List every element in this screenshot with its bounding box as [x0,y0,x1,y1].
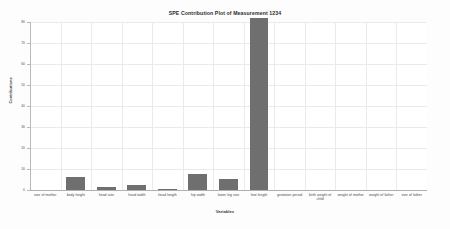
y-axis-line [30,22,31,191]
bar [188,174,207,190]
y-axis-tick-label: 60 [5,62,25,66]
gridline-vertical [305,22,306,190]
x-axis-tick-label: birth weight of child [305,193,336,202]
bar [66,177,85,190]
gridline-vertical [122,22,123,190]
y-axis-tick [27,43,30,44]
y-axis-title: Contributions [8,63,13,119]
x-axis-tick-label: gestation period [274,193,305,197]
gridline-vertical [213,22,214,190]
bar [250,18,269,190]
y-axis-tick-label: 80 [5,20,25,24]
y-axis-tick [27,190,30,191]
bar [219,179,238,190]
y-axis-tick [27,148,30,149]
gridline-vertical [366,22,367,190]
y-axis-tick-label: 10 [5,167,25,171]
x-axis-title: Variables [0,209,450,214]
x-axis-tick-label: head length [152,193,183,197]
spe-contribution-chart: SPE Contribution Plot of Measurement 123… [0,0,450,229]
plot-area [30,22,427,190]
gridline-horizontal [30,127,427,128]
y-axis-tick-label: 20 [5,146,25,150]
gridline-horizontal [30,169,427,170]
x-axis-tick-label: weight of father [366,193,397,197]
x-axis-tick-label: size of father [396,193,427,197]
gridline-vertical [183,22,184,190]
chart-title: SPE Contribution Plot of Measurement 123… [0,10,450,16]
gridline-horizontal [30,148,427,149]
gridline-vertical [91,22,92,190]
y-axis-tick-label: 0 [5,188,25,192]
gridline-vertical [274,22,275,190]
x-axis-tick-label: body height [61,193,92,197]
gridline-horizontal [30,22,427,23]
x-axis-tick-label: weight of mother [335,193,366,197]
gridline-vertical [396,22,397,190]
y-axis-tick-label: 50 [5,83,25,87]
y-axis-tick [27,22,30,23]
x-axis-tick-label: hip width [183,193,214,197]
y-axis-tick-label: 40 [5,104,25,108]
y-axis-tick [27,106,30,107]
gridline-vertical [152,22,153,190]
gridline-vertical [244,22,245,190]
x-axis-tick-label: head size [91,193,122,197]
y-axis-tick [27,169,30,170]
gridline-vertical [335,22,336,190]
y-axis-tick-label: 70 [5,41,25,45]
x-axis-tick-label: lower leg size [213,193,244,197]
gridline-horizontal [30,106,427,107]
x-axis-tick-label: head width [122,193,153,197]
gridline-vertical [61,22,62,190]
y-axis-tick [27,127,30,128]
x-axis-tick-label: foot length [244,193,275,197]
y-axis-tick [27,85,30,86]
y-axis-tick [27,64,30,65]
gridline-horizontal [30,43,427,44]
y-axis-tick-label: 30 [5,125,25,129]
x-axis-tick-label: size of mother [30,193,61,197]
gridline-horizontal [30,85,427,86]
x-axis-line [30,190,427,191]
gridline-horizontal [30,64,427,65]
